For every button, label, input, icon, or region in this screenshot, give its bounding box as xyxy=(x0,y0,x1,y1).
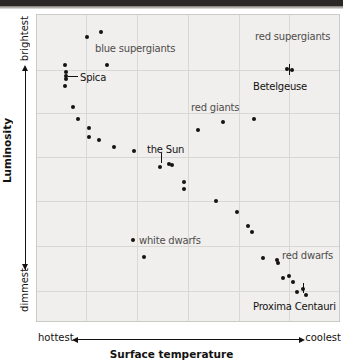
star-data-point xyxy=(287,274,291,278)
star-data-point xyxy=(97,138,101,142)
arrow-down-icon xyxy=(22,264,28,270)
group-label-white-dwarfs: white dwarfs xyxy=(139,235,201,246)
star-label-spica: Spica xyxy=(80,72,106,83)
x-axis-max-label: coolest xyxy=(305,332,341,343)
y-axis-min-label: dimmest xyxy=(19,268,30,312)
star-data-point xyxy=(112,145,116,149)
star-data-point xyxy=(235,210,239,214)
x-axis-min-label: hottest xyxy=(38,332,74,343)
star-data-point xyxy=(261,256,265,260)
star-data-point xyxy=(250,230,254,234)
group-label-red-supergiants: red supergiants xyxy=(255,31,330,42)
star-data-point xyxy=(196,128,200,132)
gridline-horizontal-2 xyxy=(37,157,339,158)
star-data-point xyxy=(63,63,67,67)
gridline-vertical-4 xyxy=(239,15,240,321)
gridline-vertical-2 xyxy=(137,15,138,321)
leader-line-proxima-centauri xyxy=(303,283,304,293)
star-data-point xyxy=(295,290,299,294)
star-data-point xyxy=(281,276,285,280)
star-data-point xyxy=(221,120,225,124)
arrow-left-icon xyxy=(72,337,78,343)
arrow-up-icon xyxy=(22,65,28,71)
group-label-blue-supergiants: blue supergiants xyxy=(95,43,175,54)
x-axis-title: Surface temperature xyxy=(0,348,343,360)
star-data-point xyxy=(99,30,103,34)
arrow-right-icon xyxy=(299,337,305,343)
star-label-betelgeuse: Betelgeuse xyxy=(253,81,307,92)
star-data-point xyxy=(170,163,174,167)
star-data-point xyxy=(252,117,256,121)
group-label-red-dwarfs: red dwarfs xyxy=(282,250,333,261)
star-data-point xyxy=(304,293,308,297)
y-axis-arrow-line xyxy=(25,70,26,270)
star-data-point xyxy=(132,149,136,153)
star-data-point xyxy=(85,35,89,39)
gridline-vertical-3 xyxy=(188,15,189,321)
x-axis: hottest coolest Surface temperature xyxy=(0,322,343,363)
y-axis: Luminosity brightest dimmest xyxy=(0,14,36,322)
star-data-point xyxy=(76,117,80,121)
star-data-point xyxy=(87,126,91,130)
star-data-point xyxy=(290,68,294,72)
star-data-point xyxy=(246,224,250,228)
star-data-point xyxy=(276,261,280,265)
star-data-point xyxy=(214,199,218,203)
star-data-point xyxy=(71,105,75,109)
star-data-point xyxy=(158,165,162,169)
star-data-point xyxy=(182,180,186,184)
gridline-horizontal-1 xyxy=(37,113,339,114)
plot-area: blue supergiantsred supergiantsred giant… xyxy=(36,14,340,322)
star-label-proxima-centauri: Proxima Centauri xyxy=(253,301,336,312)
y-axis-title: Luminosity xyxy=(1,118,13,183)
scan-top-band-fade xyxy=(0,6,343,9)
y-axis-max-label: brightest xyxy=(19,16,30,61)
star-label-the-sun: the Sun xyxy=(147,144,184,155)
leader-line-betelgeuse xyxy=(289,64,290,75)
group-label-red-giants: red giants xyxy=(191,102,239,113)
leader-line-spica xyxy=(68,76,78,77)
star-data-point xyxy=(291,280,295,284)
gridline-horizontal-5 xyxy=(37,291,339,292)
gridline-horizontal-3 xyxy=(37,201,339,202)
gridline-horizontal-4 xyxy=(37,246,339,247)
star-data-point xyxy=(142,255,146,259)
star-data-point xyxy=(64,77,68,81)
star-data-point xyxy=(63,84,67,88)
x-axis-arrow-line xyxy=(77,339,303,340)
gridline-vertical-1 xyxy=(86,15,87,321)
star-data-point xyxy=(105,63,109,67)
hr-diagram-figure: Luminosity brightest dimmest blue superg… xyxy=(0,0,343,363)
star-data-point xyxy=(131,238,135,242)
star-data-point xyxy=(87,135,91,139)
star-data-point xyxy=(182,187,186,191)
